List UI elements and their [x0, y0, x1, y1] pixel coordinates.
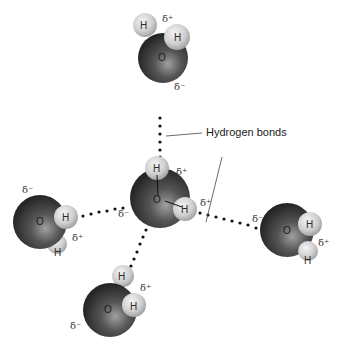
partial-negative-charge: δ⁻ [252, 213, 263, 224]
water-molecule-bottom: H H O δ⁺ δ⁻ [70, 265, 151, 337]
svg-text:O: O [158, 52, 166, 63]
svg-text:O: O [283, 225, 291, 236]
svg-text:H: H [153, 163, 160, 174]
water-hydrogen-bond-diagram: Hydrogen bonds H H O δ⁺ δ⁻ H H O δ⁺ δ⁺ δ… [0, 0, 340, 347]
svg-text:H: H [174, 32, 181, 43]
svg-text:H: H [62, 212, 69, 223]
svg-text:H: H [130, 301, 137, 312]
svg-text:O: O [153, 194, 161, 205]
partial-positive-charge: δ⁺ [72, 232, 83, 243]
svg-text:O: O [36, 216, 44, 227]
svg-text:H: H [181, 204, 188, 215]
svg-text:H: H [118, 271, 125, 282]
water-molecule-top: H H O δ⁺ δ⁻ [133, 13, 190, 92]
svg-text:H: H [140, 20, 147, 31]
partial-negative-charge: δ⁻ [70, 320, 81, 331]
water-molecule-center: H H O δ⁺ δ⁺ δ⁻ [118, 156, 211, 228]
partial-positive-charge: δ⁺ [162, 13, 173, 24]
svg-text:O: O [104, 304, 112, 315]
water-molecule-right: H H O δ⁻ δ⁺ [252, 203, 329, 266]
partial-positive-charge: δ⁺ [200, 197, 211, 208]
partial-positive-charge: δ⁺ [176, 166, 187, 177]
partial-positive-charge: δ⁺ [140, 282, 151, 293]
partial-negative-charge: δ⁻ [174, 81, 185, 92]
hydrogen-bonds-label: Hydrogen bonds [206, 126, 287, 138]
partial-negative-charge: δ⁻ [22, 184, 33, 195]
svg-text:H: H [304, 255, 311, 266]
svg-text:H: H [306, 219, 313, 230]
water-molecule-left: H H O δ⁻ δ⁺ [13, 184, 83, 258]
partial-positive-charge: δ⁺ [318, 237, 329, 248]
partial-negative-charge: δ⁻ [118, 208, 129, 219]
svg-text:H: H [54, 247, 61, 258]
